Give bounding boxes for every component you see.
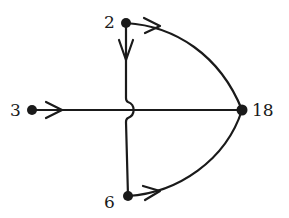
- node-6: [123, 191, 133, 201]
- node-2: [121, 18, 131, 28]
- node-label-18: 18: [252, 100, 274, 120]
- edge-6-to-18: [128, 110, 242, 196]
- node-label-2: 2: [104, 12, 115, 32]
- node-3: [27, 105, 37, 115]
- node-label-6: 6: [104, 192, 115, 212]
- graph-diagram: 2 3 18 6: [0, 0, 289, 218]
- edge-2-to-18: [126, 23, 242, 110]
- node-label-3: 3: [10, 100, 21, 120]
- node-18: [237, 105, 248, 116]
